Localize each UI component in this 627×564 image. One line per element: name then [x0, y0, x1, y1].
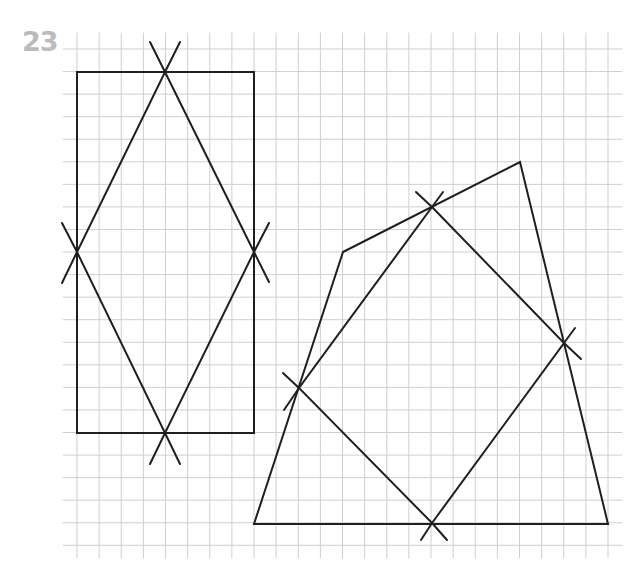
rect-bottom-mark: [165, 433, 180, 464]
rect-right-mark: [254, 223, 269, 252]
rect-right-mark: [254, 252, 269, 282]
quad-bottom-mark: [421, 523, 432, 540]
rect-top-mark: [165, 42, 180, 72]
geometry-diagram: [0, 0, 627, 564]
rect-left-mark: [62, 223, 77, 252]
quad-left-mark: [283, 373, 299, 388]
rect-bottom-mark: [150, 433, 165, 464]
quad-bottom-mark: [432, 523, 447, 540]
quad-top-mark: [416, 192, 432, 207]
rect-left-mark: [62, 252, 77, 283]
quad-right-mark: [564, 328, 575, 343]
grid-paper: [63, 33, 622, 558]
rect-top-mark: [150, 42, 165, 72]
